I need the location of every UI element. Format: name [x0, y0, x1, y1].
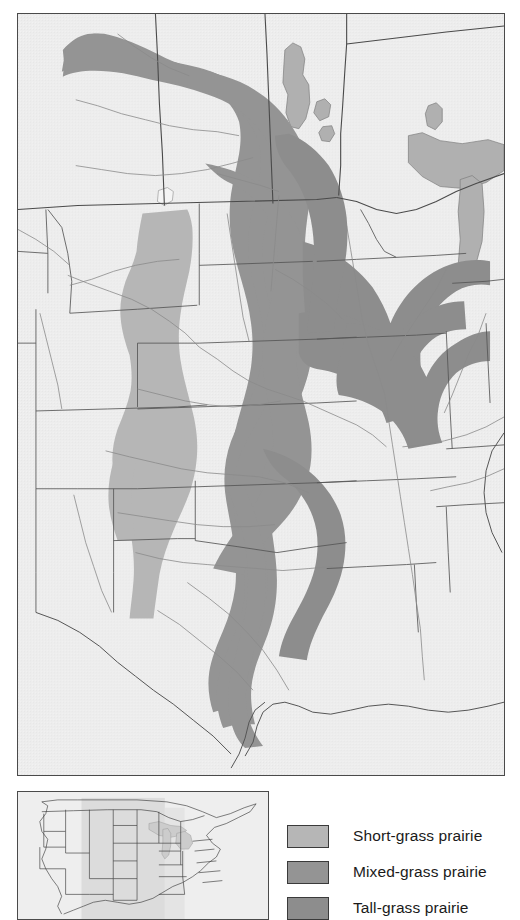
figure-root: Short-grass prairie Mixed-grass prairie … — [0, 0, 520, 920]
legend-label-mixed-grass: Mixed-grass prairie — [353, 863, 487, 881]
main-map-frame — [17, 13, 505, 776]
legend-item-tall-grass: Tall-grass prairie — [287, 890, 517, 920]
prairie-regions-map — [18, 14, 504, 775]
legend-swatch-tall-grass — [287, 897, 329, 920]
legend-swatch-short-grass — [287, 825, 329, 848]
inset-extent-highlight — [81, 798, 164, 919]
legend-item-mixed-grass: Mixed-grass prairie — [287, 854, 517, 890]
legend-label-tall-grass: Tall-grass prairie — [353, 899, 469, 917]
map-legend: Short-grass prairie Mixed-grass prairie … — [287, 818, 517, 920]
locator-inset-svg — [18, 792, 268, 919]
locator-inset-map — [17, 791, 269, 920]
legend-swatch-mixed-grass — [287, 861, 329, 884]
legend-label-short-grass: Short-grass prairie — [353, 827, 482, 845]
legend-item-short-grass: Short-grass prairie — [287, 818, 517, 854]
